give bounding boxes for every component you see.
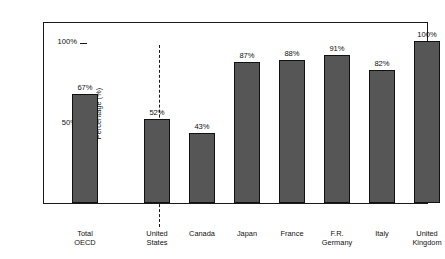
bar-group: 43%Canada <box>189 21 215 203</box>
bar-value-label: 67% <box>63 83 107 92</box>
bar-category-label-line: States <box>126 239 188 248</box>
bar[interactable] <box>189 133 215 203</box>
bar-group: 91%F.R.Germany <box>324 21 350 203</box>
bar-group: 100%UnitedKingdom <box>414 21 440 203</box>
bar-category-label-line: OECD <box>54 239 116 248</box>
bar-group: 87%Japan <box>234 21 260 203</box>
bar-value-label: 82% <box>360 59 404 68</box>
bar-group: 67%TotalOECD <box>72 21 98 203</box>
bar-category-label: UnitedKingdom <box>396 230 445 247</box>
bar-value-label: 87% <box>225 51 269 60</box>
bar-category-label-line: Germany <box>306 239 368 248</box>
bar-group: 52%UnitedStates <box>144 21 170 203</box>
bar-category-label: TotalOECD <box>54 230 116 247</box>
bar[interactable] <box>324 55 350 203</box>
bar[interactable] <box>369 70 395 203</box>
bar[interactable] <box>279 60 305 203</box>
bar[interactable] <box>144 119 170 204</box>
bar-group: 88%France <box>279 21 305 203</box>
bar[interactable] <box>72 94 98 203</box>
bar[interactable] <box>414 41 440 204</box>
bar-category-label-line: Kingdom <box>396 239 445 248</box>
bar[interactable] <box>234 62 260 203</box>
bar-value-label: 52% <box>135 108 179 117</box>
bar-value-label: 43% <box>180 122 224 131</box>
bar-value-label: 88% <box>270 49 314 58</box>
bar-value-label: 100% <box>405 30 445 39</box>
plot-area: Percentage (%) 100%50% 67%TotalOECD52%Un… <box>43 22 428 204</box>
bar-chart-figure: Percentage (%) 100%50% 67%TotalOECD52%Un… <box>0 0 445 259</box>
bar-group: 82%Italy <box>369 21 395 203</box>
bar-value-label: 91% <box>315 44 359 53</box>
